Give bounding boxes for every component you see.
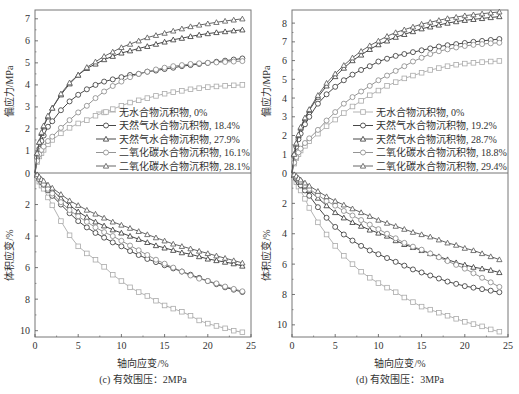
y-axis-title-stress: 偏应力/MPa	[260, 65, 272, 117]
x-tick-label: 25	[503, 340, 513, 351]
volumetric-point	[136, 253, 141, 258]
stress-point	[110, 49, 115, 54]
volumetric-point	[393, 290, 398, 295]
panel-c: 012345672468100510152025轴向应变/%偏应力/MPa体积应…	[3, 10, 256, 386]
stress-point	[206, 85, 211, 90]
stress-point	[302, 141, 307, 146]
stress-point	[58, 125, 63, 130]
stress-point	[39, 130, 44, 135]
volumetric-point	[497, 284, 502, 289]
stress-point	[162, 91, 167, 96]
volumetric-point	[171, 306, 176, 311]
volumetric-point	[324, 232, 329, 237]
volumetric-point	[350, 220, 355, 225]
stress-point	[445, 47, 450, 52]
stress-point	[127, 41, 132, 46]
volumetric-point	[50, 203, 55, 208]
series-0	[292, 59, 502, 334]
volumetric-point	[436, 276, 441, 281]
stress-point	[171, 90, 176, 95]
volumetric-point	[110, 240, 115, 245]
stress-point	[385, 56, 390, 61]
stress-point	[393, 53, 398, 58]
y-tick-label-bottom: 4	[25, 231, 30, 242]
y-tick-label-bottom: 10	[277, 319, 287, 330]
volumetric-point	[497, 329, 502, 334]
y-tick-label-bottom: 2	[282, 198, 287, 209]
volumetric-point	[428, 307, 433, 312]
volumetric-point	[59, 219, 64, 224]
x-tick-label: 15	[417, 340, 427, 351]
stress-point	[179, 63, 184, 68]
stress-point	[59, 131, 64, 136]
stress-point	[480, 60, 485, 65]
stress-point	[410, 50, 415, 55]
volumetric-point	[136, 290, 141, 295]
y-tick-label-bottom: 2	[25, 199, 30, 210]
volumetric-point	[316, 220, 321, 225]
stress-point	[180, 89, 185, 94]
volumetric-point	[67, 208, 72, 213]
volumetric-point	[240, 289, 245, 294]
volumetric-point	[410, 267, 415, 272]
volumetric-point	[214, 281, 219, 286]
series-1	[35, 56, 245, 295]
stress-point	[402, 52, 407, 57]
stress-point	[153, 67, 158, 72]
figure: 012345672468100510152025轴向应变/%偏应力/MPa体积应…	[0, 0, 519, 394]
volumetric-point	[393, 259, 398, 264]
legend-label: 二氧化碳水合物沉积物, 16.1%	[119, 146, 250, 158]
stress-point	[367, 83, 372, 88]
legend-label: 无水合物沉积物, 0%	[376, 106, 464, 118]
legend-label: 天然气水合物沉积物, 19.2%	[376, 119, 497, 131]
volumetric-point	[197, 318, 202, 323]
legend-marker	[361, 123, 366, 128]
x-tick-label: 20	[460, 340, 470, 351]
volumetric-point	[376, 227, 381, 232]
stress-point	[471, 42, 476, 47]
volumetric-point	[110, 234, 115, 239]
stress-point	[93, 96, 98, 101]
volumetric-point	[84, 219, 89, 224]
stress-point	[393, 80, 398, 85]
y-axis-title-stress: 偏应力/MPa	[3, 65, 15, 117]
stress-point	[67, 118, 72, 123]
y-tick-label-bottom: 10	[20, 325, 30, 336]
y-tick-label-top: 0	[282, 168, 287, 179]
stress-point	[384, 34, 389, 39]
stress-point	[350, 72, 355, 77]
stress-point	[376, 78, 381, 83]
stress-point	[350, 95, 355, 100]
stress-point	[119, 45, 124, 50]
volumetric-point	[76, 244, 81, 249]
volumetric-point	[93, 257, 98, 262]
stress-point	[76, 121, 81, 126]
volumetric-point	[488, 280, 493, 285]
volumetric-point	[223, 326, 228, 331]
y-axis-title-volumetric: 体积应变/%	[260, 229, 272, 280]
stress-point	[84, 103, 89, 108]
volumetric-point	[102, 230, 107, 235]
volumetric-point	[119, 244, 124, 249]
stress-point	[419, 70, 424, 75]
stress-point	[497, 59, 502, 64]
volumetric-point	[110, 219, 115, 224]
legend-marker	[361, 110, 366, 115]
volumetric-point	[488, 327, 493, 332]
volumetric-point	[445, 259, 450, 264]
volumetric-point	[324, 199, 329, 204]
stress-point	[298, 146, 303, 151]
stress-point	[324, 118, 329, 123]
stress-point	[367, 93, 372, 98]
stress-point	[128, 100, 133, 105]
stress-point	[497, 40, 502, 45]
volumetric-point	[333, 198, 338, 203]
y-tick-label-top: 6	[25, 35, 30, 46]
volumetric-point	[393, 236, 398, 241]
stress-point	[359, 67, 364, 72]
stress-point	[324, 92, 329, 97]
volumetric-point	[102, 265, 107, 270]
stress-point	[50, 119, 55, 124]
volumetric-point	[93, 225, 98, 230]
volumetric-point	[93, 230, 98, 235]
